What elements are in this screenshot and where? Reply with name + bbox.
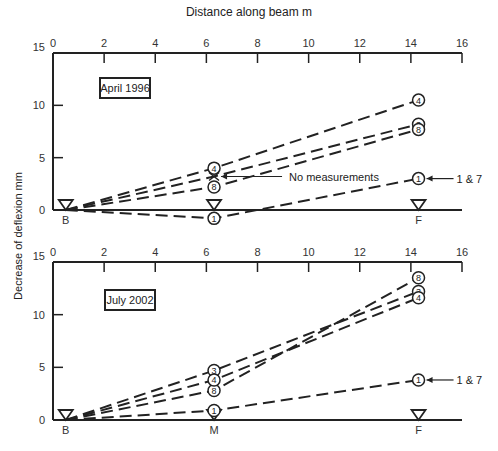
series-line-4 <box>66 100 419 210</box>
svg-text:5: 5 <box>39 361 45 373</box>
svg-text:4: 4 <box>416 96 421 106</box>
svg-text:0: 0 <box>50 246 56 258</box>
support-triangle-icon <box>412 200 426 210</box>
svg-text:15: 15 <box>33 41 45 53</box>
svg-text:4: 4 <box>212 375 217 385</box>
svg-text:14: 14 <box>405 246 417 258</box>
svg-text:1 & 7: 1 & 7 <box>457 173 483 185</box>
svg-text:6: 6 <box>203 246 209 258</box>
svg-text:8: 8 <box>212 182 217 192</box>
svg-text:8: 8 <box>416 273 421 283</box>
svg-text:4: 4 <box>152 37 158 49</box>
svg-text:2: 2 <box>101 246 107 258</box>
svg-text:0: 0 <box>39 414 45 426</box>
chart-july-2002: 0246810121416051015July 2002BMF883344111… <box>33 246 482 436</box>
svg-text:6: 6 <box>203 37 209 49</box>
svg-text:10: 10 <box>33 309 45 321</box>
svg-text:0: 0 <box>39 204 45 216</box>
svg-text:B: B <box>62 424 69 436</box>
svg-text:0: 0 <box>50 37 56 49</box>
svg-text:1: 1 <box>416 174 421 184</box>
svg-text:10: 10 <box>303 37 315 49</box>
svg-text:10: 10 <box>303 246 315 258</box>
svg-text:M: M <box>209 424 218 436</box>
svg-text:8: 8 <box>254 246 260 258</box>
chart-title-box: July 2002 <box>105 290 155 310</box>
svg-text:F: F <box>415 214 422 226</box>
svg-text:1 & 7: 1 & 7 <box>457 374 483 386</box>
svg-text:10: 10 <box>33 99 45 111</box>
svg-text:4: 4 <box>212 164 217 174</box>
support-triangle-icon <box>412 410 426 420</box>
chart-april-1996: 0246810121416051015April 1996BMF44388111… <box>33 37 482 226</box>
series-line-1 <box>66 380 419 420</box>
deflexion-charts: 0246810121416051015April 1996BMF44388111… <box>0 0 498 451</box>
svg-text:July 2002: July 2002 <box>106 294 153 306</box>
support-triangle-icon <box>207 200 221 210</box>
svg-text:15: 15 <box>33 250 45 262</box>
svg-text:4: 4 <box>416 293 421 303</box>
series-line-3 <box>66 124 419 210</box>
svg-text:8: 8 <box>416 125 421 135</box>
svg-text:8: 8 <box>254 37 260 49</box>
svg-text:4: 4 <box>152 246 158 258</box>
svg-text:16: 16 <box>456 37 468 49</box>
no-measurements-label: No measurements <box>289 171 379 183</box>
svg-text:16: 16 <box>456 246 468 258</box>
svg-text:8: 8 <box>212 386 217 396</box>
svg-text:5: 5 <box>39 152 45 164</box>
svg-text:12: 12 <box>354 246 366 258</box>
svg-text:1: 1 <box>212 214 217 224</box>
svg-text:1: 1 <box>416 375 421 385</box>
svg-text:2: 2 <box>101 37 107 49</box>
svg-text:1: 1 <box>212 406 217 416</box>
chart-title-box: April 1996 <box>100 78 150 98</box>
svg-text:F: F <box>415 424 422 436</box>
svg-text:April 1996: April 1996 <box>100 82 150 94</box>
svg-text:14: 14 <box>405 37 417 49</box>
svg-text:B: B <box>62 214 69 226</box>
svg-text:12: 12 <box>354 37 366 49</box>
